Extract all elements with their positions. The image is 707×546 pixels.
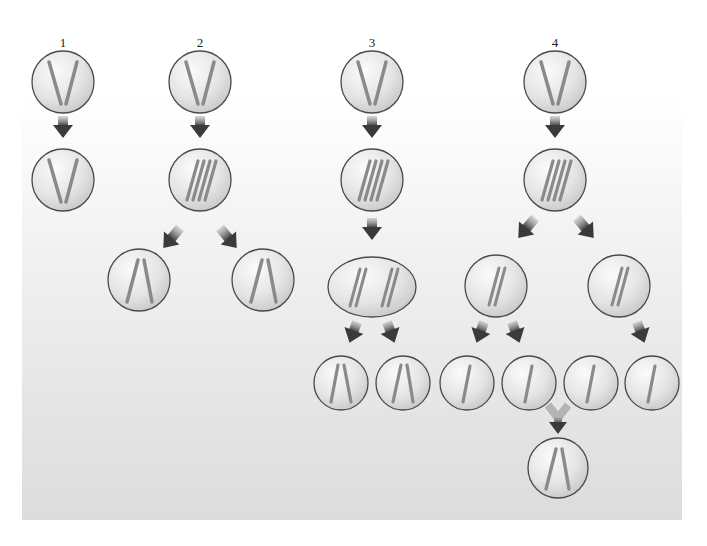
cell-zygote xyxy=(528,438,588,498)
cell-meiosis-i xyxy=(588,255,650,317)
cell-haploid xyxy=(502,356,556,410)
cell-haploid xyxy=(625,356,679,410)
cell-haploid xyxy=(440,356,494,410)
panel-label-2: 2 xyxy=(197,35,204,50)
cell-diploid xyxy=(341,51,403,113)
meiosis-diagram: 1 2 3 4 xyxy=(0,0,707,546)
cell-dividing-oval xyxy=(328,257,416,317)
cell-daughter xyxy=(314,356,368,410)
cell-daughter xyxy=(108,249,170,311)
cell-daughter xyxy=(376,356,430,410)
cell-diploid xyxy=(32,51,94,113)
cell-diploid xyxy=(524,51,586,113)
cell-haploid xyxy=(564,356,618,410)
cell-diploid xyxy=(32,149,94,211)
panel-label-3: 3 xyxy=(369,35,376,50)
cell-daughter xyxy=(232,249,294,311)
panel-label-1: 1 xyxy=(60,35,67,50)
cell-diploid xyxy=(169,51,231,113)
panel-label-4: 4 xyxy=(552,35,559,50)
cell-replicated xyxy=(341,149,403,211)
cell-replicated xyxy=(524,149,586,211)
cell-meiosis-i xyxy=(465,255,527,317)
cell-replicated xyxy=(169,149,231,211)
